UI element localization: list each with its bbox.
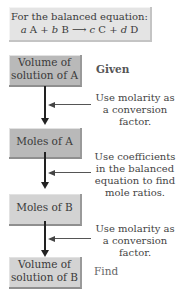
find-label: Find — [94, 265, 118, 277]
equation-box: For the balanced equation: a A + b B ⟶ c… — [9, 7, 152, 42]
pointer-line-3 — [55, 238, 91, 239]
pointer-line-1 — [55, 104, 91, 105]
arrow-down-icon — [41, 118, 49, 125]
flow-line-2 — [44, 152, 46, 182]
flow-line-3 — [44, 221, 46, 251]
given-label: Given — [96, 63, 129, 75]
arrow-down-icon — [41, 250, 49, 257]
arrow-down-icon — [41, 182, 49, 189]
pointer-left-icon — [48, 236, 55, 242]
pointer-left-icon — [48, 102, 55, 108]
box-volume-solution-b: Volume of solution of B — [9, 257, 82, 289]
note-molarity-2: Use molarity as a conversion factor. — [92, 223, 178, 259]
reaction-arrow: ⟶ — [72, 24, 86, 35]
pointer-left-icon — [48, 170, 55, 176]
balanced-equation: a A + b B ⟶ c C + d D — [9, 23, 150, 36]
equation-heading: For the balanced equation: — [9, 10, 150, 23]
note-molarity-1: Use molarity as a conversion factor. — [92, 92, 178, 128]
box-volume-solution-a: Volume of solution of A — [9, 55, 82, 87]
flow-line-1 — [44, 86, 46, 118]
note-coefficients: Use coefficients in the balanced equatio… — [90, 151, 179, 199]
pointer-line-2 — [55, 172, 91, 173]
